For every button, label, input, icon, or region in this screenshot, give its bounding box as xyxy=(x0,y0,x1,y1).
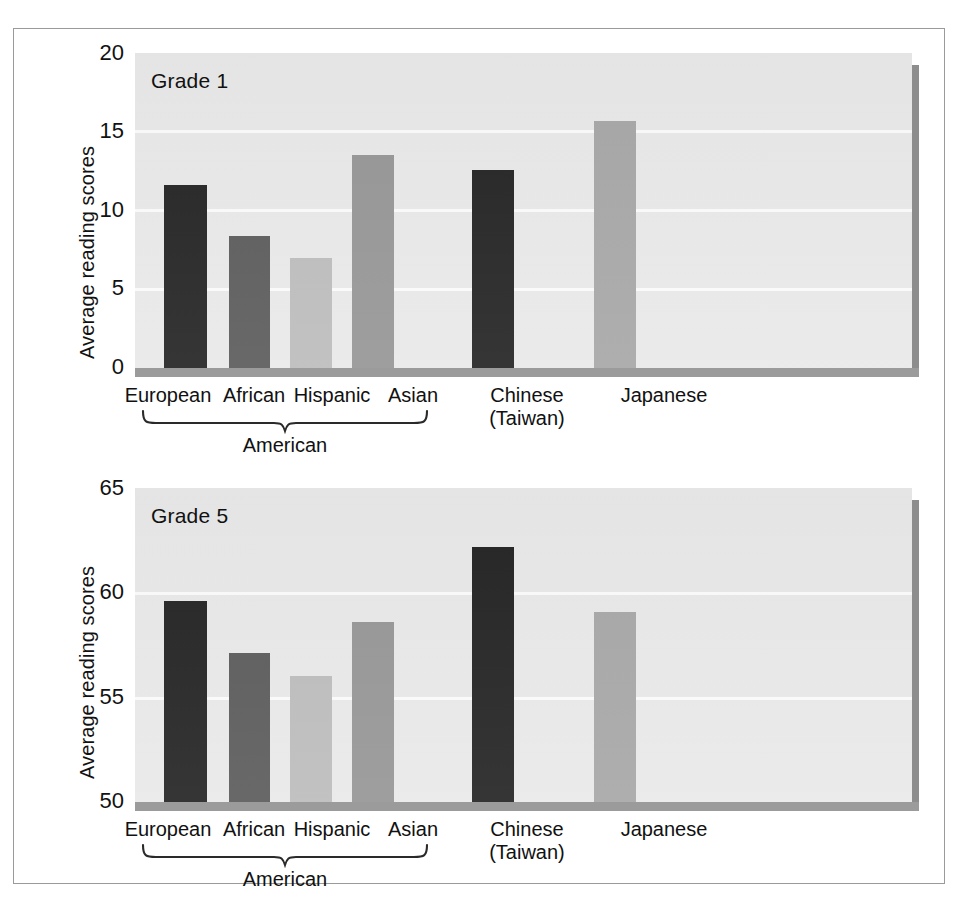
x-label-text-line2: (Taiwan) xyxy=(489,407,565,429)
x-label-grade-1-japanese: Japanese xyxy=(594,384,734,407)
group-label-american-grade-5: American xyxy=(200,868,370,891)
x-label-grade-1-asian: Asian xyxy=(376,384,450,407)
x-label-text: European xyxy=(125,818,212,840)
x-label-text: European xyxy=(125,384,212,406)
x-label-text: Hispanic xyxy=(294,818,371,840)
x-label-grade-5-european: European xyxy=(120,818,216,841)
y-tick-grade-1-0: 0 xyxy=(80,356,124,378)
bar-grade-1-japanese xyxy=(594,121,636,368)
bar-grade-1-european xyxy=(164,185,207,368)
y-axis-label-grade-1: Average reading scores xyxy=(76,146,99,359)
bar-grade-5-chinese xyxy=(472,547,514,802)
plot-right-shadow-grade-5 xyxy=(912,500,919,802)
bar-grade-1-hispanic xyxy=(290,258,332,368)
y-tick-grade-5-55: 55 xyxy=(80,686,124,708)
y-tick-grade-5-50: 50 xyxy=(80,790,124,812)
x-label-grade-5-japanese: Japanese xyxy=(594,818,734,841)
x-label-text-line2: (Taiwan) xyxy=(489,841,565,863)
x-label-text: African xyxy=(223,384,285,406)
gridline-grade-5-60 xyxy=(135,592,912,595)
x-label-grade-5-asian: Asian xyxy=(376,818,450,841)
bar-grade-5-asian xyxy=(352,622,394,802)
plot-area-grade-5 xyxy=(135,488,912,802)
american-brace-grade-1 xyxy=(140,408,430,434)
x-label-text: Chinese xyxy=(490,384,563,406)
plot-area-grade-1 xyxy=(135,53,912,368)
x-label-text: Hispanic xyxy=(294,384,371,406)
x-label-grade-5-hispanic: Hispanic xyxy=(286,818,378,841)
y-tick-grade-1-10: 10 xyxy=(80,199,124,221)
bar-grade-1-african xyxy=(229,236,270,368)
chart-panel-grade-1: Average reading scores 0 5 10 15 20 Grad… xyxy=(14,29,946,459)
american-brace-grade-5 xyxy=(140,842,430,868)
x-label-grade-1-european: European xyxy=(120,384,216,407)
bar-grade-5-african xyxy=(229,653,270,802)
x-label-text: Asian xyxy=(388,818,438,840)
x-label-text: Chinese xyxy=(490,818,563,840)
y-tick-grade-1-5: 5 xyxy=(80,277,124,299)
gridline-grade-1-15 xyxy=(135,130,912,133)
figure-frame: Average reading scores 0 5 10 15 20 Grad… xyxy=(13,28,945,884)
axis-baseline-grade-5 xyxy=(135,802,919,811)
y-tick-grade-5-60: 60 xyxy=(80,581,124,603)
x-label-grade-5-chinese: Chinese (Taiwan) xyxy=(457,818,597,864)
chart-panel-grade-5: Average reading scores 50 55 60 65 Grade… xyxy=(14,461,946,885)
y-tick-grade-5-65: 65 xyxy=(80,477,124,499)
y-tick-grade-1-20: 20 xyxy=(80,42,124,64)
bar-grade-1-asian xyxy=(352,155,394,368)
panel-title-grade-1: Grade 1 xyxy=(151,69,228,93)
gridline-grade-1-10 xyxy=(135,209,912,212)
x-label-grade-1-chinese: Chinese (Taiwan) xyxy=(457,384,597,430)
x-label-grade-5-african: African xyxy=(213,818,295,841)
panel-title-grade-5: Grade 5 xyxy=(151,504,228,528)
bar-grade-5-japanese xyxy=(594,612,636,803)
x-label-grade-1-hispanic: Hispanic xyxy=(286,384,378,407)
plot-right-shadow-grade-1 xyxy=(912,65,919,368)
bar-grade-1-chinese xyxy=(472,170,514,369)
bar-grade-5-hispanic xyxy=(290,676,332,802)
x-label-text: African xyxy=(223,818,285,840)
x-label-text: Japanese xyxy=(621,384,708,406)
x-label-grade-1-african: African xyxy=(213,384,295,407)
x-label-text: Japanese xyxy=(621,818,708,840)
group-label-american-grade-1: American xyxy=(200,434,370,457)
x-label-text: Asian xyxy=(388,384,438,406)
bar-grade-5-european xyxy=(164,601,207,802)
axis-baseline-grade-1 xyxy=(135,368,919,377)
y-tick-grade-1-15: 15 xyxy=(80,120,124,142)
